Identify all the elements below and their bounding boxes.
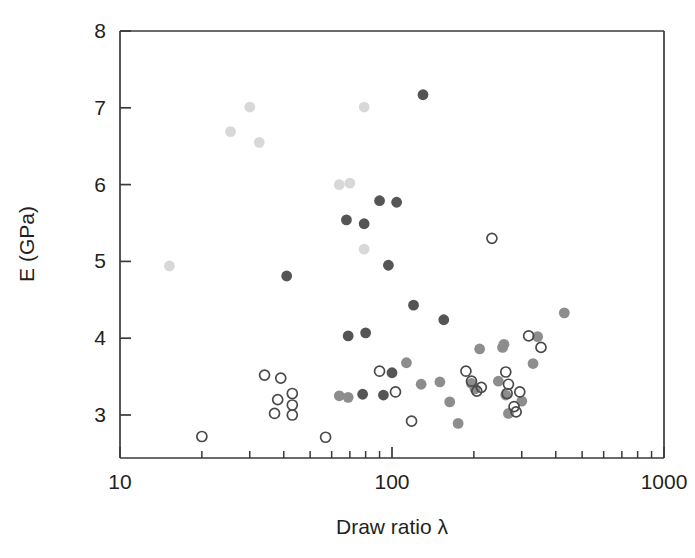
data-point-dark-gray-filled-circle bbox=[359, 218, 370, 229]
series-open bbox=[197, 233, 546, 442]
data-point-open-circle bbox=[524, 331, 534, 341]
data-point-light-gray-filled-circle bbox=[359, 244, 370, 255]
data-point-open-circle bbox=[260, 370, 270, 380]
y-tick-label: 6 bbox=[94, 173, 106, 196]
data-point-dark-gray-filled-circle bbox=[343, 330, 354, 341]
data-point-open-circle bbox=[287, 400, 297, 410]
data-point-open-circle bbox=[461, 366, 471, 376]
data-point-dark-gray-filled-circle bbox=[438, 314, 449, 325]
data-point-open-circle bbox=[487, 233, 497, 243]
y-tick-label: 3 bbox=[94, 403, 106, 426]
x-tick-label: 10 bbox=[108, 470, 131, 493]
data-point-dark-gray-filled-circle bbox=[360, 327, 371, 338]
data-point-dark-gray-filled-circle bbox=[281, 271, 292, 282]
data-point-light-gray-filled-circle bbox=[334, 179, 345, 190]
data-points-layer bbox=[164, 89, 570, 442]
data-point-open-circle bbox=[270, 408, 280, 418]
data-point-open-circle bbox=[536, 342, 546, 352]
data-point-open-circle bbox=[287, 388, 297, 398]
data-point-dark-gray-filled-circle bbox=[341, 215, 352, 226]
data-point-dark-gray-filled-circle bbox=[357, 389, 368, 400]
data-point-medium-gray-filled-circle bbox=[499, 339, 510, 350]
data-point-dark-gray-filled-circle bbox=[418, 89, 429, 100]
data-point-open-circle bbox=[390, 387, 400, 397]
data-point-open-circle bbox=[321, 432, 331, 442]
y-tick-label: 7 bbox=[94, 96, 106, 119]
data-point-medium-gray-filled-circle bbox=[435, 377, 446, 388]
data-point-dark-gray-filled-circle bbox=[408, 300, 419, 311]
y-tick-label: 5 bbox=[94, 249, 106, 272]
y-axis-title: E (GPa) bbox=[15, 206, 38, 282]
data-point-medium-gray-filled-circle bbox=[528, 358, 539, 369]
data-point-dark-gray-filled-circle bbox=[391, 197, 402, 208]
series-medium-gray bbox=[334, 307, 570, 428]
data-point-medium-gray-filled-circle bbox=[474, 344, 485, 355]
data-point-open-circle bbox=[503, 379, 513, 389]
data-point-dark-gray-filled-circle bbox=[383, 260, 394, 271]
data-point-open-circle bbox=[273, 395, 283, 405]
y-axis-tick-labels: 345678 bbox=[94, 19, 106, 426]
data-point-light-gray-filled-circle bbox=[344, 178, 355, 189]
data-point-dark-gray-filled-circle bbox=[387, 367, 398, 378]
data-point-medium-gray-filled-circle bbox=[416, 379, 427, 390]
data-point-dark-gray-filled-circle bbox=[374, 195, 385, 206]
data-point-light-gray-filled-circle bbox=[164, 261, 175, 272]
series-light-gray bbox=[164, 102, 369, 272]
y-axis-ticks bbox=[120, 31, 131, 415]
data-point-medium-gray-filled-circle bbox=[453, 418, 464, 429]
data-point-medium-gray-filled-circle bbox=[559, 307, 570, 318]
data-point-open-circle bbox=[197, 432, 207, 442]
x-axis-title: Draw ratio λ bbox=[336, 515, 449, 538]
plot-canvas: 101001000 345678 Draw ratio λ E (GPa) bbox=[0, 0, 695, 558]
data-point-light-gray-filled-circle bbox=[359, 102, 370, 113]
data-point-open-circle bbox=[287, 410, 297, 420]
x-axis-ticks bbox=[120, 447, 664, 458]
data-point-open-circle bbox=[501, 367, 511, 377]
data-point-medium-gray-filled-circle bbox=[343, 392, 354, 403]
axes-frame bbox=[120, 31, 664, 458]
data-point-medium-gray-filled-circle bbox=[493, 376, 504, 387]
data-point-dark-gray-filled-circle bbox=[378, 390, 389, 401]
y-tick-label: 8 bbox=[94, 19, 106, 42]
x-tick-label: 1000 bbox=[641, 470, 688, 493]
data-point-light-gray-filled-circle bbox=[244, 102, 255, 113]
data-point-open-circle bbox=[375, 366, 385, 376]
data-point-open-circle bbox=[407, 416, 417, 426]
data-point-medium-gray-filled-circle bbox=[401, 357, 412, 368]
data-point-light-gray-filled-circle bbox=[225, 126, 236, 137]
scatter-plot-figure: 101001000 345678 Draw ratio λ E (GPa) bbox=[0, 0, 695, 558]
data-point-open-circle bbox=[515, 387, 525, 397]
data-point-medium-gray-filled-circle bbox=[444, 397, 455, 408]
y-tick-label: 4 bbox=[94, 326, 106, 349]
x-tick-label: 100 bbox=[374, 470, 409, 493]
data-point-light-gray-filled-circle bbox=[254, 137, 265, 148]
x-axis-tick-labels: 101001000 bbox=[108, 470, 687, 493]
data-point-open-circle bbox=[276, 373, 286, 383]
